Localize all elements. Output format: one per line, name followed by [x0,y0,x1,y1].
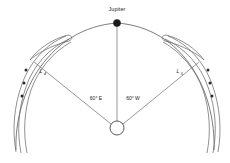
swarm-l4-lens [30,35,72,60]
swarm-l4-arc-2 [19,39,69,153]
asteroid-marker-l5-2 [209,82,212,85]
l5-label: L 5 [177,68,183,76]
trojan-swarm-l4 [14,35,72,153]
l4-label-subscript: 4 [44,72,46,76]
angle-label-east: 60° E [90,95,103,101]
swarm-l5-arc-1 [168,36,220,152]
asteroid-marker-l4-2 [23,82,26,85]
swarm-l4-arc-1 [14,36,66,152]
asteroid-marker-l5-1 [207,69,210,72]
radial-lines-group [34,25,199,124]
trojan-swarm-l5 [162,35,220,153]
l5-label-subscript: 5 [181,72,183,76]
asteroid-marker-l5-3 [211,95,214,98]
sun-marker [110,121,124,135]
swarm-l5-arc-2 [165,39,215,153]
angle-label-west: 60° W [126,95,140,101]
astronomy-diagram: Jupiter L 4 L 5 60° E 60° W [0,0,230,163]
l4-label-letter: L [40,68,43,74]
asteroid-marker-l4-3 [21,95,24,98]
radial-line-sun-to-l5 [123,62,199,124]
jupiter-label: Jupiter [109,6,126,12]
asteroid-marker-l4-1 [25,69,28,72]
l5-label-letter: L [177,68,180,74]
jupiter-marker [113,19,120,26]
diagram-canvas: Jupiter L 4 L 5 60° E 60° W [0,0,230,163]
